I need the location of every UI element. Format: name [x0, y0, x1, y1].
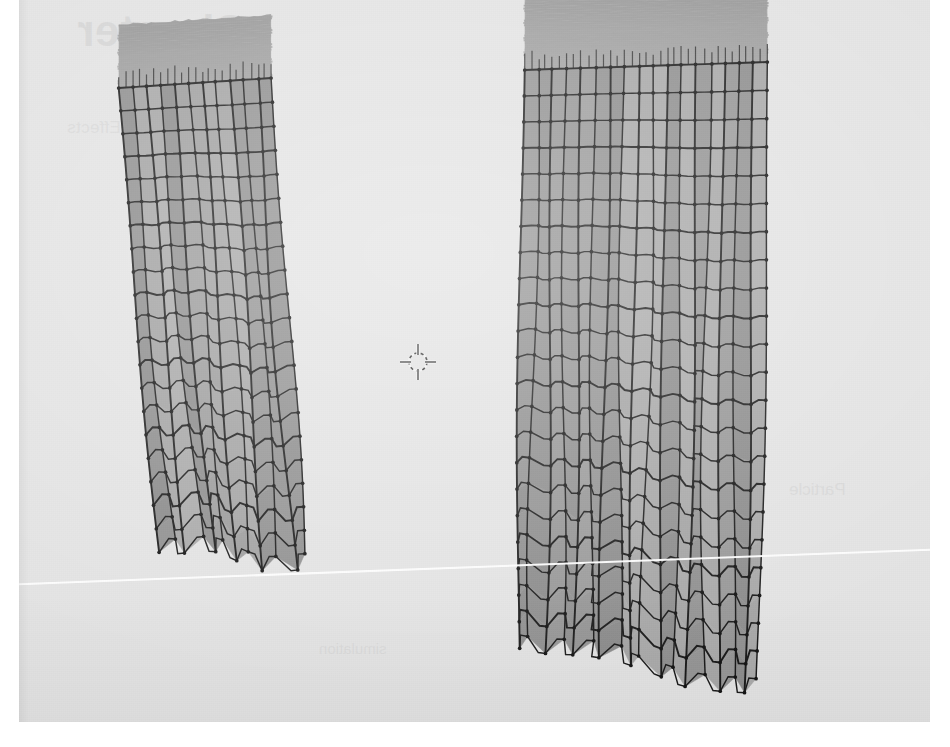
3d-viewport[interactable]: Chapter Environmental Effects Particle s… — [19, 0, 930, 722]
floor-grid-x-axis-line — [19, 0, 930, 722]
screenshot-page: Chapter Environmental Effects Particle s… — [0, 0, 950, 747]
3d-cursor-icon[interactable] — [397, 341, 439, 383]
